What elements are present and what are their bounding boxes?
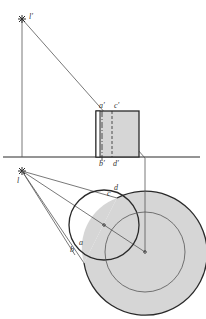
shadow-construction-diagram: l′ a′ c′ b′ d′ l d c a b: [0, 0, 206, 319]
label-c-top: c: [107, 189, 111, 198]
label-b-front: b′: [99, 159, 105, 168]
label-a-front: a′: [99, 101, 105, 110]
label-light-top: l: [17, 176, 20, 185]
cylinder-top-circle: [69, 190, 139, 260]
label-c-front: c′: [114, 101, 120, 110]
cylinder-front-view: [96, 111, 139, 162]
label-b-top: b: [70, 245, 74, 254]
label-light-front: l′: [29, 12, 33, 21]
label-a-top: a: [79, 238, 83, 247]
label-d-front: d′: [113, 159, 119, 168]
label-d-top: d: [114, 183, 119, 192]
light-source-front-icon: [18, 15, 26, 23]
